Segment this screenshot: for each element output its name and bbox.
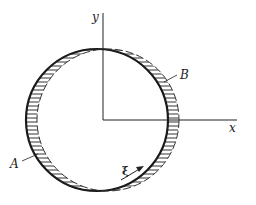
point-a-label: A bbox=[9, 157, 19, 171]
tube-section-diagram: y x B A ξ bbox=[0, 0, 256, 205]
xi-label: ξ bbox=[122, 165, 129, 178]
point-b-label: B bbox=[179, 68, 189, 82]
x-axis-label: x bbox=[229, 121, 236, 135]
y-axis-label: y bbox=[91, 10, 99, 24]
